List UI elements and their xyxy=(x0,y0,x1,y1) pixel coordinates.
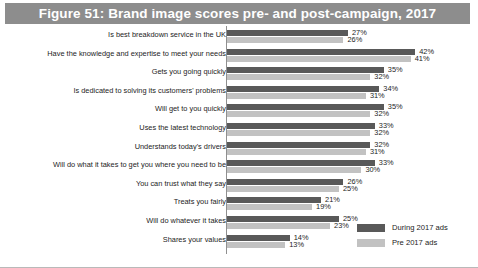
bar-value-label: 32% xyxy=(374,109,389,118)
bar-value-label: 13% xyxy=(289,240,304,249)
bar-value-label: 33% xyxy=(379,158,394,167)
category-label: Will do whatever it takes xyxy=(11,216,226,225)
legend-item-pre: Pre 2017 ads xyxy=(357,235,475,250)
bar-pre-2017-ads xyxy=(227,204,312,210)
bar-value-label: 35% xyxy=(388,102,403,111)
chart-bar-row: Is dedicated to solving its customers' p… xyxy=(0,84,478,102)
legend-label-pre: Pre 2017 ads xyxy=(392,238,437,247)
bar-during-2017-ads xyxy=(227,142,370,148)
bar-during-2017-ads xyxy=(227,104,384,110)
chart-bar-row: Have the knowledge and expertise to meet… xyxy=(0,47,478,65)
bar-value-label: 25% xyxy=(343,184,358,193)
legend-label-during: During 2017 ads xyxy=(392,223,448,232)
bar-value-label: 32% xyxy=(374,72,389,81)
bar-during-2017-ads xyxy=(227,197,321,203)
bar-during-2017-ads xyxy=(227,235,290,241)
category-label: Treats you fairly xyxy=(11,197,226,206)
bar-pre-2017-ads xyxy=(227,186,339,192)
bar-pre-2017-ads xyxy=(227,149,366,155)
bar-pre-2017-ads xyxy=(227,111,370,117)
bar-pre-2017-ads xyxy=(227,74,370,80)
chart-bar-row: Understands today's drivers32%31% xyxy=(0,140,478,158)
chart-bar-row: Treats you fairly21%19% xyxy=(0,195,478,213)
bar-value-label: 23% xyxy=(334,221,349,230)
category-label: Will do what it takes to get you where y… xyxy=(11,160,226,169)
category-label: Shares your values xyxy=(11,235,226,244)
bar-value-label: 31% xyxy=(370,91,385,100)
bar-during-2017-ads xyxy=(227,123,375,129)
chart-bar-row: Gets you going quickly35%32% xyxy=(0,65,478,83)
bar-value-label: 30% xyxy=(365,165,380,174)
category-label: Have the knowledge and expertise to meet… xyxy=(11,49,226,58)
figure-container: Figure 51: Brand image scores pre- and p… xyxy=(0,0,478,268)
bar-value-label: 41% xyxy=(415,54,430,63)
bar-pre-2017-ads xyxy=(227,130,370,136)
figure-title-banner: Figure 51: Brand image scores pre- and p… xyxy=(5,3,470,24)
chart-legend: During 2017 ads Pre 2017 ads xyxy=(357,220,475,250)
bar-pre-2017-ads xyxy=(227,37,343,43)
bar-value-label: 34% xyxy=(383,84,398,93)
bar-pre-2017-ads xyxy=(227,56,411,62)
bar-during-2017-ads xyxy=(227,160,375,166)
category-label: Is best breakdown service in the UK xyxy=(11,30,226,39)
legend-swatch-during-icon xyxy=(357,224,385,232)
legend-item-during: During 2017 ads xyxy=(357,220,475,235)
bar-during-2017-ads xyxy=(227,49,415,55)
chart-bar-row: You can trust what they say26%25% xyxy=(0,177,478,195)
bar-pre-2017-ads xyxy=(227,167,361,173)
chart-bar-row: Is best breakdown service in the UK27%26… xyxy=(0,28,478,46)
legend-swatch-pre-icon xyxy=(357,239,385,247)
category-label: Uses the latest technology xyxy=(11,123,226,132)
bar-pre-2017-ads xyxy=(227,223,330,229)
bar-during-2017-ads xyxy=(227,30,348,36)
page-title: Figure 51: Brand image scores pre- and p… xyxy=(39,6,436,21)
chart-bar-row: Will get to you quickly35%32% xyxy=(0,102,478,120)
bar-during-2017-ads xyxy=(227,216,339,222)
bar-during-2017-ads xyxy=(227,179,343,185)
bar-value-label: 19% xyxy=(316,202,331,211)
chart-bar-row: Will do what it takes to get you where y… xyxy=(0,158,478,176)
bar-value-label: 26% xyxy=(347,35,362,44)
bar-pre-2017-ads xyxy=(227,242,285,248)
category-label: Understands today's drivers xyxy=(11,142,226,151)
category-label: Gets you going quickly xyxy=(11,67,226,76)
category-label: Will get to you quickly xyxy=(11,104,226,113)
chart-bar-row: Uses the latest technology33%32% xyxy=(0,121,478,139)
bar-value-label: 32% xyxy=(374,128,389,137)
bar-during-2017-ads xyxy=(227,86,379,92)
bar-value-label: 31% xyxy=(370,147,385,156)
bar-during-2017-ads xyxy=(227,67,384,73)
category-label: You can trust what they say xyxy=(11,179,226,188)
category-label: Is dedicated to solving its customers' p… xyxy=(11,86,226,95)
bar-pre-2017-ads xyxy=(227,93,366,99)
bar-value-label: 35% xyxy=(388,65,403,74)
